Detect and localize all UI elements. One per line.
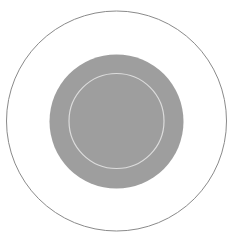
concentric-circles-diagram [0, 0, 230, 244]
diagram-canvas [0, 0, 230, 244]
